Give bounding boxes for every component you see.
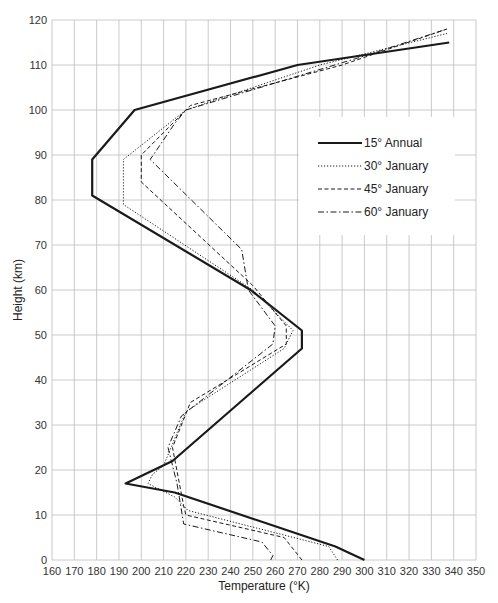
x-tick-label: 340 [445, 565, 463, 577]
series-line-45-january [141, 29, 447, 560]
x-tick-label: 280 [311, 565, 329, 577]
x-tick-label: 240 [221, 565, 239, 577]
x-tick-label: 270 [288, 565, 306, 577]
y-tick-label: 120 [29, 14, 47, 26]
x-tick-label: 310 [378, 565, 396, 577]
y-tick-label: 50 [35, 329, 47, 341]
y-tick-label: 60 [35, 284, 47, 296]
x-axis-title: Temperature (°K) [218, 579, 310, 593]
series-line-30-january [123, 34, 447, 561]
y-tick-label: 40 [35, 374, 47, 386]
x-tick-label: 250 [244, 565, 262, 577]
y-axis-ticks: 0102030405060708090100110120 [29, 14, 47, 566]
grid [52, 20, 476, 560]
x-axis-ticks: 1601701801902002102202302402502602702802… [43, 565, 485, 577]
legend-label: 60° January [364, 205, 428, 219]
x-tick-label: 290 [333, 565, 351, 577]
y-tick-label: 90 [35, 149, 47, 161]
legend-label: 30° January [364, 159, 428, 173]
x-tick-label: 260 [266, 565, 284, 577]
y-tick-label: 80 [35, 194, 47, 206]
legend-label: 15° Annual [364, 136, 422, 150]
y-tick-label: 20 [35, 464, 47, 476]
x-tick-label: 190 [110, 565, 128, 577]
x-tick-label: 200 [132, 565, 150, 577]
x-tick-label: 160 [43, 565, 61, 577]
y-tick-label: 30 [35, 419, 47, 431]
x-tick-label: 230 [199, 565, 217, 577]
x-tick-label: 220 [177, 565, 195, 577]
legend-label: 45° January [364, 182, 428, 196]
x-tick-label: 300 [355, 565, 373, 577]
series-lines [92, 29, 449, 560]
x-tick-label: 210 [154, 565, 172, 577]
y-tick-label: 100 [29, 104, 47, 116]
legend: 15° Annual30° January45° January60° Janu… [299, 117, 455, 235]
temperature-height-chart: 0102030405060708090100110120 16017018019… [0, 0, 498, 603]
y-tick-label: 10 [35, 509, 47, 521]
y-axis-title: Height (km) [11, 259, 25, 321]
x-tick-label: 320 [400, 565, 418, 577]
series-line-60-january [150, 29, 447, 560]
x-tick-label: 330 [422, 565, 440, 577]
x-tick-label: 350 [467, 565, 485, 577]
y-tick-label: 110 [29, 59, 47, 71]
x-tick-label: 170 [65, 565, 83, 577]
x-tick-label: 180 [87, 565, 105, 577]
y-tick-label: 70 [35, 239, 47, 251]
